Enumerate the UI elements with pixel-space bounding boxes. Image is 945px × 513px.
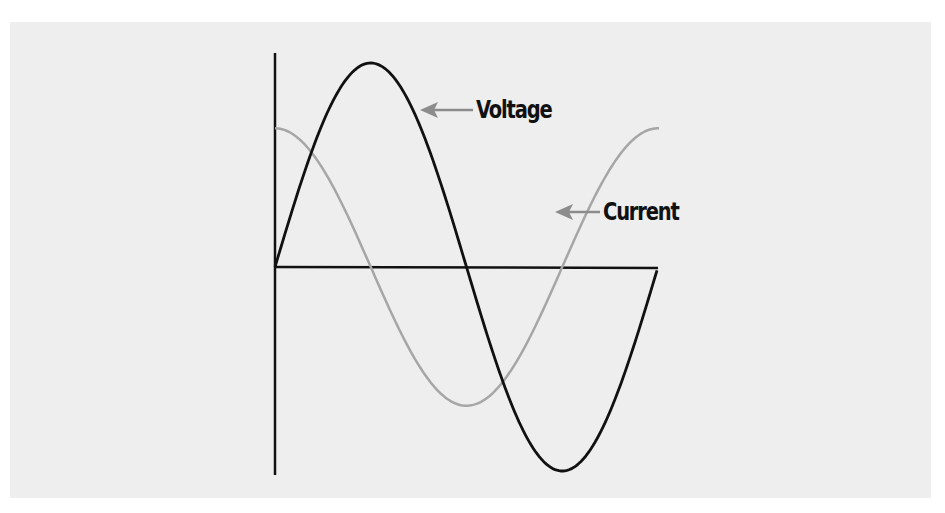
current-arrow <box>555 204 600 220</box>
voltage-label: Voltage <box>476 97 552 122</box>
voltage-arrow <box>420 102 473 118</box>
current-label: Current <box>603 199 679 224</box>
ac-waveform-diagram <box>0 0 945 513</box>
